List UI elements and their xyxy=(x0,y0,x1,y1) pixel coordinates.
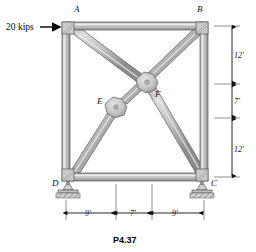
joint-label-b: B xyxy=(197,4,203,14)
support-d xyxy=(56,181,80,198)
joint-block-b xyxy=(196,22,208,34)
dimension-horizontal-middle: 7' xyxy=(130,209,136,218)
joint-block-a xyxy=(62,22,74,34)
joint-label-f: F xyxy=(154,89,161,99)
joint-label-a: A xyxy=(73,4,80,14)
joint-label-d: D xyxy=(51,178,59,188)
figure-caption: P4.37 xyxy=(113,235,137,245)
joint-label-c: C xyxy=(211,178,218,188)
joint-label-e: E xyxy=(96,96,103,106)
member-a-d xyxy=(62,22,70,181)
member-d-c xyxy=(68,173,202,181)
joint-block-c xyxy=(196,169,208,181)
member-a-f xyxy=(68,25,147,85)
dimension-vertical-bottom: 12' xyxy=(234,145,244,154)
member-a-b xyxy=(68,22,202,30)
truss-diagram: 20 kips A B C D E F 12' 7' 12' xyxy=(0,0,256,252)
dimension-horizontal-left: 9' xyxy=(85,209,91,218)
load-label: 20 kips xyxy=(6,22,34,32)
dimension-horizontal-right: 9' xyxy=(172,209,178,218)
member-d-e xyxy=(70,108,118,176)
joint-block-d xyxy=(62,169,74,181)
member-e-b xyxy=(120,26,203,104)
dimension-vertical-top: 12' xyxy=(234,51,244,60)
figure-container: 20 kips A B C D E F 12' 7' 12' xyxy=(0,0,256,252)
dimension-vertical-middle: 7' xyxy=(234,97,240,106)
member-b-c xyxy=(200,22,208,181)
